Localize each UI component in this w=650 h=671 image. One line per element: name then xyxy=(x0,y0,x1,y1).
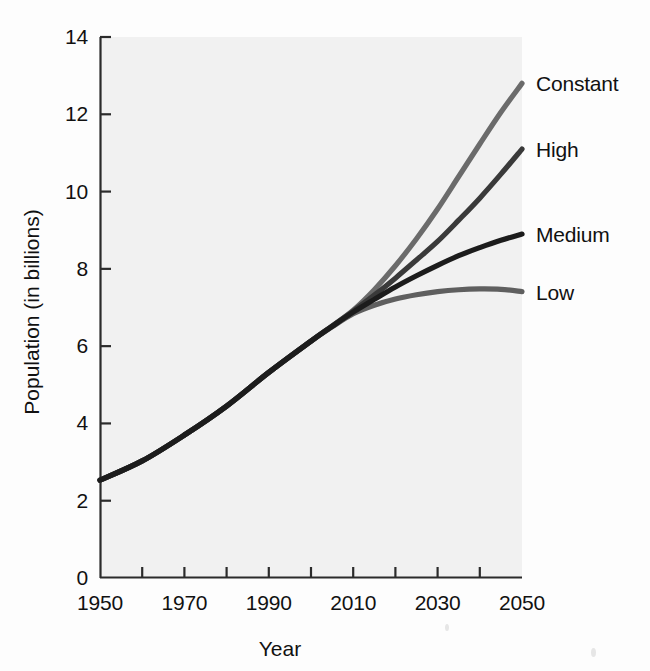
series-label-high: High xyxy=(536,139,578,160)
x-axis-ticks xyxy=(142,567,480,578)
series-label-constant: Constant xyxy=(536,73,618,94)
x-tick-label: 2010 xyxy=(308,592,398,613)
series-line-medium xyxy=(100,234,522,480)
series-label-medium: Medium xyxy=(536,224,610,245)
scan-artifact xyxy=(591,648,596,657)
series-line-constant xyxy=(100,83,522,480)
scan-artifact xyxy=(445,624,449,631)
y-axis-ticks xyxy=(100,37,111,501)
series-lines xyxy=(100,83,522,480)
y-axis-title: Population (in billions) xyxy=(20,162,44,462)
chart-canvas xyxy=(0,0,650,671)
population-projection-figure: 02468101214 195019701990201020302050 Yea… xyxy=(0,0,650,671)
y-tick-label: 12 xyxy=(28,103,88,124)
series-label-low: Low xyxy=(536,282,574,303)
axes-group xyxy=(100,37,522,578)
x-axis-title: Year xyxy=(0,637,560,661)
x-tick-label: 1970 xyxy=(139,592,229,613)
y-tick-label: 2 xyxy=(28,490,88,511)
y-tick-label: 0 xyxy=(28,567,88,588)
x-tick-label: 2050 xyxy=(477,592,567,613)
x-tick-label: 1950 xyxy=(55,592,145,613)
y-tick-label: 14 xyxy=(28,26,88,47)
series-line-high xyxy=(100,149,522,480)
x-tick-label: 1990 xyxy=(224,592,314,613)
x-tick-label: 2030 xyxy=(393,592,483,613)
